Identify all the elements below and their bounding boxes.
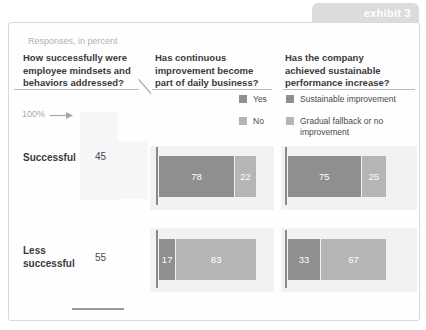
right-arrow-icon	[50, 111, 74, 120]
stacked-bar-q3-successful: 75 25	[288, 156, 386, 197]
row-highlight-band	[80, 141, 148, 199]
bottom-rule	[72, 308, 124, 310]
bar-segment-no: 83	[176, 239, 256, 280]
chart-subtitle: Responses, in percent	[28, 36, 118, 46]
bar-segment-fallback: 25	[362, 156, 386, 197]
legend-item-yes: Yes	[239, 94, 267, 105]
bar-axis	[156, 147, 158, 205]
header-underline-3	[283, 89, 415, 90]
legend-swatch-fallback-icon	[286, 117, 294, 125]
legend-label-no: No	[253, 116, 264, 127]
question-header-mindsets: How successfully were employee mindsets …	[23, 52, 153, 90]
question-header-performance: Has the company achieved sustainable per…	[285, 52, 417, 90]
legend-swatch-yes-icon	[239, 95, 247, 103]
legend-swatch-sustainable-icon	[286, 95, 294, 103]
header-underline-1	[14, 89, 139, 90]
legend-swatch-no-icon	[239, 117, 247, 125]
legend-label-yes: Yes	[253, 94, 267, 105]
bar-segment-fallback: 67	[321, 239, 386, 280]
stacked-bar-q2-less-successful: 17 83	[159, 239, 256, 280]
legend-label-fallback: Gradual fallback or no improvement	[300, 116, 410, 137]
stacked-bar-q3-less-successful: 33 67	[288, 239, 386, 280]
scale-100-label: 100%	[22, 109, 45, 119]
bar-segment-yes: 17	[159, 239, 175, 280]
row-label-less-successful: Less successful	[23, 244, 75, 270]
question-header-continuous-improvement: Has continuous improvement become part o…	[155, 52, 277, 90]
legend-item-fallback: Gradual fallback or no improvement	[286, 116, 410, 137]
bar-axis	[156, 230, 158, 288]
legend-item-no: No	[239, 116, 264, 127]
legend-label-sustainable: Sustainable improvement	[300, 94, 410, 105]
bar-segment-yes: 78	[159, 156, 234, 197]
row-label-successful: Successful	[23, 151, 76, 164]
legend-item-sustainable: Sustainable improvement	[286, 94, 410, 105]
bar-segment-sustainable: 75	[288, 156, 361, 197]
row-value-less-successful: 55	[95, 252, 106, 263]
row-value-successful: 45	[95, 151, 106, 162]
exhibit-tab: exhibit 3	[312, 3, 419, 23]
bar-axis	[285, 147, 287, 205]
exhibit-page: exhibit 3 Responses, in percent How succ…	[0, 0, 426, 330]
bar-segment-no: 22	[235, 156, 256, 197]
stacked-bar-q2-successful: 78 22	[159, 156, 256, 197]
bar-segment-sustainable: 33	[288, 239, 320, 280]
header-underline-2	[152, 89, 272, 90]
bar-axis	[285, 230, 287, 288]
